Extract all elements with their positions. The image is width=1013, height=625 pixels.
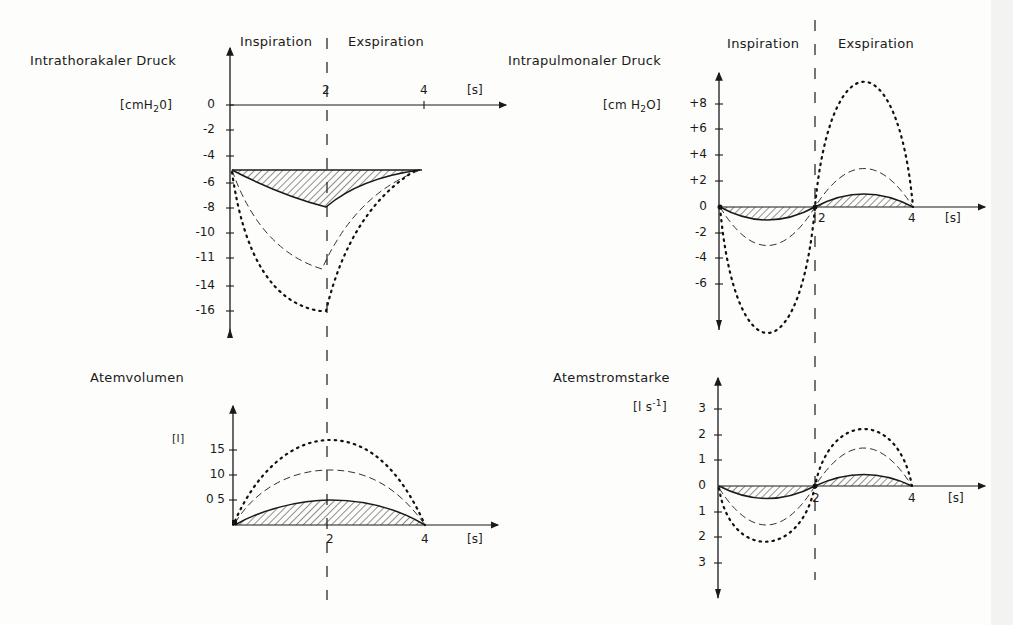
ytick: -6	[677, 276, 707, 290]
x-unit-label: [s]	[467, 83, 483, 97]
xtick: 4	[908, 211, 916, 225]
ytick: 3	[676, 555, 706, 569]
ytick: -4	[185, 148, 215, 162]
ytick: 2	[676, 529, 706, 543]
chart-title-tidal-volume: Atemvolumen	[90, 370, 184, 385]
ytick: -2	[185, 122, 215, 136]
xtick: 2	[326, 532, 334, 546]
chart-title-intrapulmonary: Intrapulmonaler Druck	[508, 53, 661, 68]
xtick: 4	[421, 532, 429, 546]
ytick: +4	[677, 147, 707, 161]
unit-label-intrapulmonary: [cm H2O]	[603, 98, 661, 114]
x-unit-label: [s]	[948, 491, 964, 505]
ytick: +2	[677, 173, 707, 187]
ytick: -2	[677, 225, 707, 239]
ytick: -16	[185, 303, 215, 317]
ytick: 1	[676, 452, 706, 466]
ytick: -4	[677, 250, 707, 264]
chart-tidal-volume	[229, 406, 498, 526]
ytick: 1	[676, 504, 706, 518]
xtick: 2	[322, 83, 330, 97]
ytick: 0	[677, 199, 707, 213]
xtick: 4	[908, 491, 916, 505]
unit-label-volume: [l]	[172, 432, 185, 445]
ytick: +6	[677, 121, 707, 135]
x-unit-label: [s]	[467, 532, 483, 546]
phase-label-expiration-left: Exspiration	[348, 34, 424, 49]
x-unit-label: [s]	[945, 211, 961, 225]
ytick: -14	[185, 278, 215, 292]
xtick: 2	[818, 211, 826, 225]
ytick: -11	[185, 250, 215, 264]
chart-airflow-rate	[714, 378, 985, 599]
ytick: 10	[195, 467, 225, 481]
xtick: 2	[812, 491, 820, 505]
ytick: 0	[676, 478, 706, 492]
xtick: 4	[420, 83, 428, 97]
ytick: 3	[676, 401, 706, 415]
chart-title-intrathoracic: Intrathorakaler Druck	[30, 53, 176, 68]
phase-label-inspiration-left: Inspiration	[240, 34, 312, 49]
phase-label-expiration-right: Exspiration	[838, 36, 914, 51]
ytick: 0	[185, 97, 215, 111]
unit-label-intrathoracic: [cmH20]	[120, 98, 172, 114]
ytick: -10	[185, 225, 215, 239]
ytick: -8	[185, 200, 215, 214]
chart-title-airflow: Atemstromstarke	[553, 370, 670, 385]
chart-intrapulmonary-pressure	[715, 73, 985, 333]
ytick: 2	[676, 427, 706, 441]
ytick: 15	[195, 442, 225, 456]
ytick: +8	[677, 96, 707, 110]
phase-label-inspiration-right: Inspiration	[727, 36, 799, 51]
ytick: 0 5	[195, 492, 225, 506]
unit-label-airflow: [l s-1]	[633, 398, 667, 414]
respiration-figure	[0, 0, 1013, 625]
ytick: -6	[185, 175, 215, 189]
chart-intrathoracic-pressure	[226, 48, 506, 338]
